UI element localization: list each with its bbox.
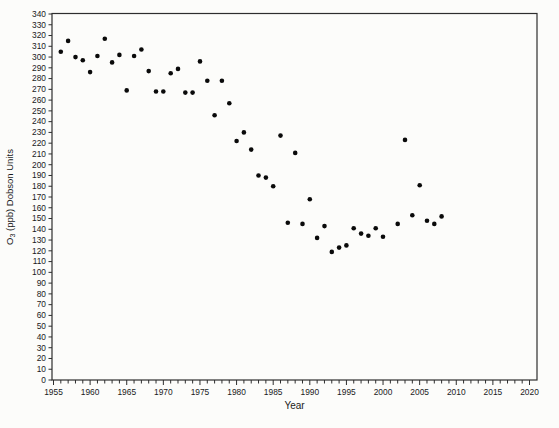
x-tick-label: 1955: [44, 387, 63, 397]
y-tick-label: 80: [37, 289, 47, 299]
data-point: [205, 78, 210, 83]
data-point: [381, 235, 386, 240]
y-tick-label: 260: [32, 95, 46, 105]
y-tick-label: 200: [32, 160, 46, 170]
x-tick-label: 1980: [227, 387, 246, 397]
figure-page: 0102030405060708090100110120130140150160…: [0, 0, 559, 428]
x-tick-label: 2010: [447, 387, 466, 397]
data-point: [81, 58, 86, 63]
y-tick-label: 0: [41, 375, 46, 385]
chart-background: [0, 0, 559, 428]
ozone-scatter-chart: 0102030405060708090100110120130140150160…: [0, 0, 559, 428]
y-tick-label: 20: [37, 353, 47, 363]
y-tick-label: 30: [37, 343, 47, 353]
data-point: [293, 151, 298, 156]
x-tick-label: 1985: [264, 387, 283, 397]
y-tick-label: 320: [32, 30, 46, 40]
data-point: [351, 226, 356, 231]
y-tick-label: 50: [37, 321, 47, 331]
y-tick-label: 230: [32, 127, 46, 137]
data-point: [198, 59, 203, 64]
data-point: [154, 89, 159, 94]
data-point: [168, 71, 173, 76]
y-tick-label: 280: [32, 73, 46, 83]
y-tick-label: 290: [32, 63, 46, 73]
y-tick-label: 100: [32, 267, 46, 277]
data-point: [403, 138, 408, 143]
y-tick-label: 300: [32, 52, 46, 62]
x-axis-title: Year: [284, 400, 305, 411]
y-tick-label: 340: [32, 9, 46, 19]
y-tick-label: 170: [32, 192, 46, 202]
y-tick-label: 190: [32, 170, 46, 180]
y-tick-label: 60: [37, 310, 47, 320]
data-point: [124, 88, 129, 93]
data-point: [161, 89, 166, 94]
data-point: [330, 250, 335, 255]
y-axis-title: O3 (ppb) Dobson Units: [4, 149, 16, 245]
data-point: [432, 222, 437, 227]
x-tick-label: 2005: [410, 387, 429, 397]
y-tick-label: 250: [32, 106, 46, 116]
data-point: [220, 78, 225, 83]
data-point: [103, 37, 108, 42]
y-tick-label: 140: [32, 224, 46, 234]
data-point: [410, 213, 415, 218]
y-tick-label: 40: [37, 332, 47, 342]
x-tick-label: 2000: [374, 387, 393, 397]
data-point: [337, 245, 342, 250]
data-point: [300, 222, 305, 227]
data-point: [183, 90, 188, 95]
data-point: [315, 236, 320, 241]
data-point: [344, 243, 349, 248]
data-point: [359, 231, 364, 236]
data-point: [256, 173, 261, 178]
data-point: [395, 222, 400, 227]
y-tick-label: 210: [32, 149, 46, 159]
data-point: [139, 47, 144, 52]
data-point: [249, 147, 254, 152]
x-tick-label: 2015: [484, 387, 503, 397]
y-tick-label: 220: [32, 138, 46, 148]
y-tick-label: 70: [37, 299, 47, 309]
y-tick-label: 120: [32, 246, 46, 256]
y-tick-label: 150: [32, 213, 46, 223]
data-point: [308, 197, 313, 202]
y-tick-label: 330: [32, 20, 46, 30]
data-point: [146, 69, 151, 74]
data-point: [286, 221, 291, 226]
data-point: [278, 133, 283, 138]
data-point: [73, 55, 78, 60]
x-tick-label: 1975: [191, 387, 210, 397]
x-tick-label: 1965: [117, 387, 136, 397]
x-tick-label: 1995: [337, 387, 356, 397]
y-tick-label: 270: [32, 84, 46, 94]
y-tick-label: 180: [32, 181, 46, 191]
data-point: [322, 224, 327, 229]
data-point: [59, 49, 64, 54]
y-tick-label: 160: [32, 203, 46, 213]
data-point: [88, 70, 93, 75]
data-point: [110, 60, 115, 65]
data-point: [242, 130, 247, 135]
data-point: [234, 139, 239, 144]
data-point: [176, 67, 181, 72]
x-tick-label: 1960: [81, 387, 100, 397]
data-point: [190, 90, 195, 95]
data-point: [95, 54, 100, 59]
data-point: [66, 39, 71, 44]
y-tick-label: 10: [37, 364, 47, 374]
data-point: [366, 234, 371, 239]
y-tick-label: 130: [32, 235, 46, 245]
data-point: [227, 101, 232, 106]
x-tick-label: 1970: [154, 387, 173, 397]
data-point: [439, 214, 444, 219]
x-tick-label: 2020: [520, 387, 539, 397]
data-point: [271, 184, 276, 189]
data-point: [417, 183, 422, 188]
data-point: [132, 54, 137, 59]
data-point: [425, 218, 430, 223]
data-point: [373, 226, 378, 231]
y-tick-label: 310: [32, 41, 46, 51]
x-tick-label: 1990: [300, 387, 319, 397]
